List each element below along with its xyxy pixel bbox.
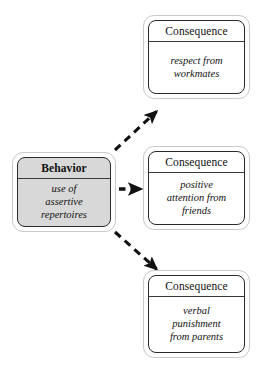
consequence-node-1-body-text: respect fromworkmates: [170, 55, 222, 81]
consequence-node-3-body: verbalpunishmentfrom parents: [149, 297, 244, 352]
consequence-node-2-inner: Consequence positiveattention fromfriend…: [148, 151, 245, 225]
behavior-node-inner: Behavior use ofassertiverepertoires: [17, 157, 111, 227]
consequence-node-3-title: Consequence: [149, 276, 244, 297]
arrow-to-consequence-3: [115, 232, 157, 269]
consequence-node-1-body: respect fromworkmates: [149, 42, 244, 93]
behavior-node: Behavior use ofassertiverepertoires: [12, 152, 116, 232]
behavior-node-body: use ofassertiverepertoires: [18, 179, 110, 226]
consequence-node-2-body: positiveattention fromfriends: [149, 173, 244, 224]
consequence-node-2-body-text: positiveattention fromfriends: [167, 179, 226, 217]
behavior-node-title: Behavior: [18, 158, 110, 179]
consequence-node-1-title: Consequence: [149, 21, 244, 42]
consequence-node-3: Consequence verbalpunishmentfrom parents: [143, 270, 250, 358]
consequence-node-3-inner: Consequence verbalpunishmentfrom parents: [148, 275, 245, 353]
arrow-to-consequence-1: [115, 112, 157, 151]
behavior-consequence-diagram: Behavior use ofassertiverepertoires Cons…: [0, 0, 264, 373]
consequence-node-2-title: Consequence: [149, 152, 244, 173]
behavior-node-body-text: use ofassertiverepertoires: [41, 183, 87, 221]
consequence-node-2: Consequence positiveattention fromfriend…: [143, 146, 250, 230]
consequence-node-1-inner: Consequence respect fromworkmates: [148, 20, 245, 94]
consequence-node-3-body-text: verbalpunishmentfrom parents: [170, 305, 223, 343]
consequence-node-1: Consequence respect fromworkmates: [143, 15, 250, 99]
